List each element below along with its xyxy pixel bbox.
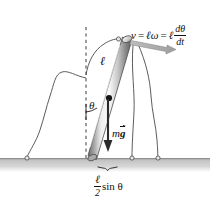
leader-line-right-a (130, 45, 134, 160)
equals-sign-1: = (138, 29, 144, 41)
fraction-numerator: dθ (174, 24, 186, 35)
equals-sign-2: = (160, 29, 166, 41)
dtheta-dt-fraction: dθdt (174, 24, 186, 47)
half-ell-fraction: ℓ2 (94, 174, 101, 198)
angle-theta-label: θ (89, 100, 94, 111)
base-fraction-denominator: 2 (94, 186, 101, 199)
physics-figure-falling-rod: v=ℓω=ℓdθdt ℓ θ mg ℓ2sin θ (0, 0, 210, 208)
ell-omega-term: ℓω (146, 29, 158, 41)
leader-line-right-b (138, 44, 160, 160)
gravity-symbol: g (120, 127, 126, 139)
rod-length-label: ℓ (100, 55, 105, 67)
mass-symbol: m (112, 127, 120, 139)
ground-strip (0, 158, 210, 172)
ell-factor: ℓ (169, 29, 174, 41)
base-fraction-numerator: ℓ (94, 174, 101, 186)
gravity-vector-symbol: g (120, 128, 126, 139)
velocity-equation: v=ℓω=ℓdθdt (131, 25, 186, 48)
velocity-symbol: v (131, 29, 136, 41)
vector-arrow-overbar (120, 126, 126, 127)
sine-theta-term: sin θ (102, 180, 123, 192)
leader-line-left (25, 72, 86, 161)
base-extent-label: ℓ2sin θ (94, 175, 123, 199)
weight-force-label: mg (112, 128, 125, 139)
fraction-denominator: dt (174, 35, 186, 48)
